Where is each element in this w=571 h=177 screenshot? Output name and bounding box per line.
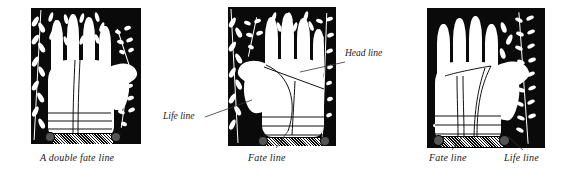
leader-lines-right: [0, 0, 571, 177]
palmistry-figure: A double fate line: [0, 0, 571, 177]
caption-panel-right-life: Life line: [504, 152, 539, 163]
caption-panel-right-fate: Fate line: [429, 152, 467, 163]
